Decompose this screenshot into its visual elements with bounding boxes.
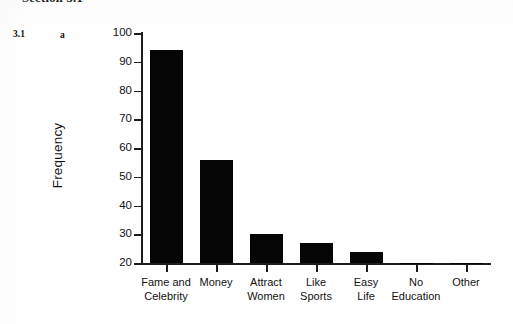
y-tick-label: 100	[104, 27, 132, 39]
y-axis-line	[141, 32, 143, 264]
x-tick-mark	[416, 264, 418, 272]
x-category-label-line: Money	[188, 276, 244, 290]
x-category-label: EasyLife	[338, 276, 394, 303]
y-tick-label: 70	[104, 113, 132, 125]
bar	[450, 263, 483, 264]
y-tick-label: 80	[104, 85, 132, 97]
x-category-label-line: Life	[338, 290, 394, 304]
bar	[200, 160, 233, 264]
x-category-label: Other	[438, 276, 494, 290]
bar-chart-figure: Frequency 1009080706050403020 Fame andCe…	[0, 0, 513, 324]
x-category-label-line: Attract	[238, 276, 294, 290]
x-category-label-line: Celebrity	[138, 290, 194, 304]
bar	[250, 234, 283, 263]
x-tick-mark	[366, 264, 368, 272]
x-tick-mark	[466, 264, 468, 272]
bar	[300, 243, 333, 263]
bar	[350, 252, 383, 264]
x-tick-mark	[216, 264, 218, 272]
x-category-label: Money	[188, 276, 244, 290]
bar	[150, 50, 183, 263]
x-tick-mark	[316, 264, 318, 272]
x-category-label-line: Sports	[288, 290, 344, 304]
x-category-label-line: Education	[388, 290, 444, 304]
y-tick-label: 30	[104, 228, 132, 240]
x-tick-mark	[166, 264, 168, 272]
y-axis-title: Frequency	[50, 96, 65, 216]
x-category-label-line: Other	[438, 276, 494, 290]
y-tick-label: 60	[104, 142, 132, 154]
x-category-label: Fame andCelebrity	[138, 276, 194, 303]
x-category-label: AttractWomen	[238, 276, 294, 303]
x-category-label-line: Women	[238, 290, 294, 304]
x-category-label: NoEducation	[388, 276, 444, 303]
x-category-label-line: Fame and	[138, 276, 194, 290]
x-category-label: LikeSports	[288, 276, 344, 303]
x-tick-mark	[266, 264, 268, 272]
bar	[400, 263, 433, 264]
y-tick-label: 20	[104, 257, 132, 269]
x-category-label-line: No	[388, 276, 444, 290]
x-category-label-line: Like	[288, 276, 344, 290]
y-tick-label: 50	[104, 171, 132, 183]
x-category-label-line: Easy	[338, 276, 394, 290]
y-tick-label: 40	[104, 200, 132, 212]
y-tick-label: 90	[104, 56, 132, 68]
